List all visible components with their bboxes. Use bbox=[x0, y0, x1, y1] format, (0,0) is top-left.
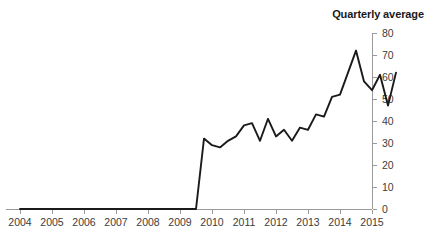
y-tick-label: 0 bbox=[382, 203, 388, 215]
x-tick-label: 2005 bbox=[40, 216, 64, 228]
y-tick-label: 30 bbox=[382, 137, 394, 149]
y-tick-label: 40 bbox=[382, 115, 394, 127]
y-tick-label: 60 bbox=[382, 71, 394, 83]
x-tick-label: 2009 bbox=[168, 216, 192, 228]
series-line bbox=[20, 51, 396, 209]
value-axis-right: 01020304050607080 bbox=[373, 27, 394, 215]
x-tick-label: 2010 bbox=[200, 216, 224, 228]
x-tick-label: 2011 bbox=[233, 216, 256, 228]
x-tick-label: 2008 bbox=[136, 216, 160, 228]
x-tick-label: 2015 bbox=[360, 216, 384, 228]
x-tick-label: 2006 bbox=[72, 216, 96, 228]
year-axis-bottom: 2004200520062007200820092010201120122013… bbox=[6, 210, 384, 229]
data-series-group bbox=[20, 51, 396, 209]
x-tick-label: 2013 bbox=[296, 216, 320, 228]
chart-plot-area: 01020304050607080 2004200520062007200820… bbox=[0, 0, 430, 240]
y-tick-label: 10 bbox=[382, 181, 394, 193]
x-tick-label: 2004 bbox=[8, 216, 32, 228]
y-tick-label: 70 bbox=[382, 49, 394, 61]
quarterly-average-chart: Quarterly average 01020304050607080 2004… bbox=[0, 0, 430, 240]
x-tick-label: 2007 bbox=[104, 216, 128, 228]
y-tick-label: 80 bbox=[382, 27, 394, 39]
x-tick-label: 2014 bbox=[328, 216, 352, 228]
x-tick-label: 2012 bbox=[264, 216, 288, 228]
y-tick-label: 20 bbox=[382, 159, 394, 171]
